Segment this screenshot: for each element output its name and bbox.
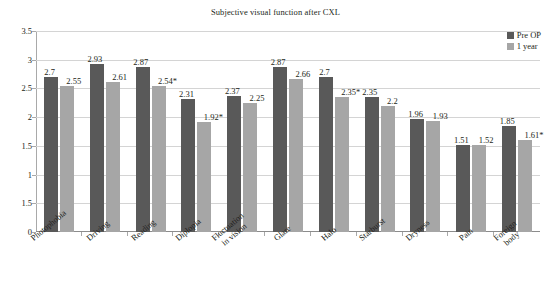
bar-group: 1.511.52: [448, 31, 494, 232]
bar-group: 2.872.54*: [128, 31, 174, 232]
bar-group: 2.72.55: [36, 31, 82, 232]
x-axis-category: Fluctuation in vision: [219, 234, 265, 289]
bar-1-year: 1.93: [426, 121, 440, 232]
bar-value-label: 2.93: [87, 54, 102, 64]
x-axis-category: Reading: [128, 234, 174, 289]
bar-group: 2.72.35*: [311, 31, 357, 232]
y-axis-labels: 3.532.521.511.50: [0, 31, 32, 232]
bar-value-label: 1.61*: [524, 130, 543, 140]
bar-1-year: 1.92*: [197, 122, 211, 232]
y-tick-label: 1.5: [21, 141, 32, 151]
bar-pre-op: 2.87: [273, 67, 287, 232]
chart-container: Subjective visual function after CXL Pre…: [0, 0, 551, 289]
bar-value-label: 2.87: [271, 57, 286, 67]
x-axis-category: Glare: [265, 234, 311, 289]
bar-pre-op: 2.31: [181, 99, 195, 232]
bar-value-label: 1.51: [454, 135, 469, 145]
x-axis-category: Pain: [448, 234, 494, 289]
x-axis-category: Dryness: [403, 234, 449, 289]
bar-group: 2.932.61: [82, 31, 128, 232]
bar-group: 2.311.92*: [173, 31, 219, 232]
bar-group: 2.352.2: [357, 31, 403, 232]
bar-value-label: 2.37: [225, 86, 240, 96]
bar-value-label: 1.96: [408, 109, 423, 119]
bar-pre-op: 1.96: [410, 119, 424, 232]
bar-pre-op: 2.35: [365, 97, 379, 232]
bar-pre-op: 2.87: [136, 67, 150, 232]
y-tick-label: 2.5: [21, 83, 32, 93]
bar-pre-op: 1.51: [456, 145, 470, 232]
bar-groups: 2.72.552.932.612.872.54*2.311.92*2.372.2…: [36, 31, 540, 232]
bar-group: 2.372.25: [219, 31, 265, 232]
bar-value-label: 2.35: [362, 87, 377, 97]
bar-value-label: 1.85: [500, 116, 515, 126]
bar-value-label: 2.61: [112, 72, 127, 82]
bar-1-year: 2.54*: [152, 86, 166, 232]
bar-value-label: 1.52: [479, 135, 494, 145]
bar-group: 1.961.93: [403, 31, 449, 232]
bar-value-label: 2.31: [179, 89, 194, 99]
bar-group: 2.872.66: [265, 31, 311, 232]
x-axis-category: Photophobia: [36, 234, 82, 289]
bar-value-label: 2.7: [44, 67, 55, 77]
bar-1-year: 1.61*: [518, 140, 532, 232]
chart-title: Subjective visual function after CXL: [0, 7, 551, 17]
y-tick-label: 1.5: [21, 198, 32, 208]
bar-value-label: 2.25: [250, 93, 265, 103]
x-axis-category: Starburst: [357, 234, 403, 289]
bar-value-label: 2.87: [133, 57, 148, 67]
x-axis-category: Diplopia: [173, 234, 219, 289]
bar-pre-op: 1.85: [502, 126, 516, 232]
bar-value-label: 1.93: [433, 111, 448, 121]
bar-value-label: 2.55: [66, 76, 81, 86]
bar-1-year: 2.66: [289, 79, 303, 232]
bar-group: 1.851.61*: [494, 31, 540, 232]
bar-pre-op: 2.7: [319, 77, 333, 232]
x-axis-category: Foreign body: [494, 234, 540, 289]
bar-value-label: 2.2: [387, 96, 398, 106]
bar-value-label: 2.66: [295, 69, 310, 79]
bar-pre-op: 2.7: [44, 77, 58, 232]
bar-1-year: 2.25: [243, 103, 257, 232]
bar-1-year: 2.2: [381, 106, 395, 232]
bar-value-label: 2.7: [319, 67, 330, 77]
x-axis-category: Driving: [82, 234, 128, 289]
bar-1-year: 2.61: [106, 82, 120, 232]
y-tick-label: 3.5: [21, 26, 32, 36]
bar-1-year: 1.52: [472, 145, 486, 232]
bar-1-year: 2.35*: [335, 97, 349, 232]
x-axis-categories: PhotophobiaDrivingReadingDiplopiaFluctua…: [36, 234, 540, 289]
bar-pre-op: 2.93: [90, 64, 104, 232]
x-axis-category: Halo: [311, 234, 357, 289]
